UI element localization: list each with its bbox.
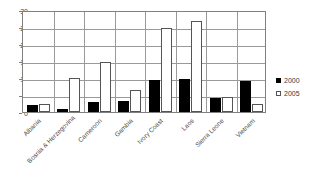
- hollow-square-icon: [276, 91, 281, 96]
- bar-bosnia-herzegovina-2000: [57, 109, 68, 112]
- legend: 2000 2005: [276, 74, 314, 100]
- bar-cameroon-2005: [100, 62, 111, 112]
- category-divider: [84, 12, 85, 112]
- bar-vietnam-2005: [252, 104, 263, 113]
- filled-square-icon: [276, 78, 281, 83]
- bar-ivory-coast-2000: [149, 80, 160, 112]
- legend-item-2005[interactable]: 2005: [276, 87, 314, 100]
- category-divider: [176, 12, 177, 112]
- bar-vietnam-2000: [240, 81, 251, 112]
- bar-bosnia-herzegovina-2005: [69, 78, 80, 112]
- bar-ivory-coast-2005: [161, 28, 172, 112]
- legend-item-2000[interactable]: 2000: [276, 74, 314, 87]
- bar-laos-2000: [179, 79, 190, 112]
- y-tick-mark: [19, 113, 22, 114]
- bar-chart: 051015202530 AlbaniaBosnia & Herzegovina…: [0, 0, 314, 180]
- category-divider: [115, 12, 116, 112]
- bar-albania-2005: [39, 104, 50, 113]
- legend-label: 2005: [284, 90, 300, 97]
- plot-area: [22, 11, 266, 113]
- bar-cameroon-2000: [88, 102, 99, 112]
- category-divider: [206, 12, 207, 112]
- category-divider: [54, 12, 55, 112]
- legend-label: 2000: [284, 77, 300, 84]
- bar-albania-2000: [27, 105, 38, 112]
- bar-gambia-2005: [130, 90, 141, 112]
- bar-sierra-leone-2000: [210, 98, 221, 112]
- category-divider: [145, 12, 146, 112]
- gridline: [23, 29, 265, 30]
- gridline: [23, 80, 265, 81]
- category-divider: [237, 12, 238, 112]
- bar-gambia-2000: [118, 101, 129, 112]
- bar-laos-2005: [191, 21, 202, 112]
- bar-sierra-leone-2005: [222, 97, 233, 112]
- gridline: [23, 46, 265, 47]
- gridline: [23, 63, 265, 64]
